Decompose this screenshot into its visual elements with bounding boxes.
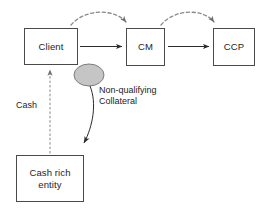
node-cm-label: CM — [138, 41, 153, 53]
node-cash-rich-entity[interactable]: Cash rich entity — [16, 155, 84, 202]
node-ccp-label: CCP — [224, 41, 244, 53]
node-cm[interactable]: CM — [126, 28, 165, 66]
node-cash-rich-entity-label: Cash rich entity — [29, 167, 70, 190]
diagram-canvas: Client CM CCP Cash rich entity Cash Non-… — [0, 0, 271, 216]
edge-cm-to-ccp-dashed — [161, 12, 214, 25]
node-client-label: Client — [39, 41, 64, 53]
node-client[interactable]: Client — [24, 28, 78, 65]
edge-client-to-cm-dashed — [71, 12, 126, 25]
edge-label-non-qualifying-collateral: Non-qualifying Collateral — [99, 85, 157, 107]
edge-label-cash: Cash — [16, 100, 37, 111]
node-transformer-ellipse — [74, 64, 104, 86]
edge-transformer-to-cash-rich — [84, 86, 94, 143]
node-ccp[interactable]: CCP — [213, 28, 255, 66]
